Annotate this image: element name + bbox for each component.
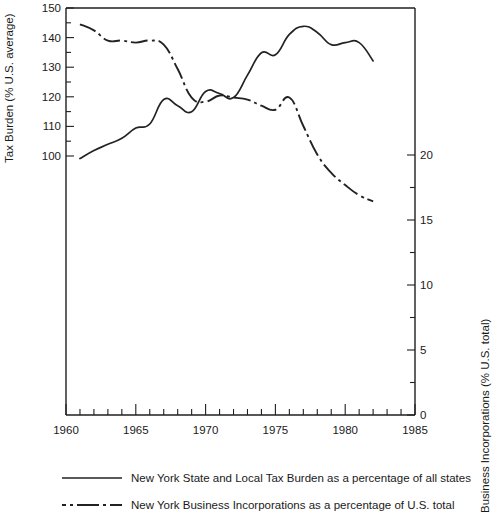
left-tick-label-100: 100 (42, 150, 61, 162)
left-tick-label-140: 140 (42, 32, 61, 44)
right-tick-label-10: 10 (420, 279, 433, 291)
legend-entry-business-incorporations: New York Business Incorporations as a pe… (62, 499, 454, 511)
x-tick-label-1975: 1975 (263, 424, 289, 436)
left-tick-label-110: 110 (43, 120, 61, 132)
x-tick-label-1980: 1980 (332, 424, 358, 436)
left-tick-label-150: 150 (42, 2, 61, 14)
right-tick-label-15: 15 (420, 214, 433, 226)
chart-svg: 150 140 130 120 110 100 Tax Burden (% U.… (0, 0, 498, 513)
right-tick-label-5: 5 (420, 344, 426, 356)
legend-label-business-incorporations: New York Business Incorporations as a pe… (131, 499, 454, 511)
x-axis-ticks (66, 404, 415, 415)
left-axis-tick-labels: 150 140 130 120 110 100 (42, 2, 61, 162)
plot-frame (66, 8, 415, 415)
left-axis-ticks (66, 8, 74, 156)
left-axis-title: Tax Burden (% U.S. average) (3, 13, 15, 163)
x-tick-label-1985: 1985 (402, 424, 428, 436)
chart-legend: New York State and Local Tax Burden as a… (62, 472, 471, 511)
series-line-tax-burden (80, 26, 373, 158)
right-tick-label-20: 20 (420, 149, 433, 161)
x-tick-label-1965: 1965 (123, 424, 149, 436)
x-axis-tick-labels: 1960 1965 1970 1975 1980 1985 (53, 424, 428, 436)
left-tick-label-130: 130 (42, 61, 61, 73)
right-axis-title: Business Incorporations (% U.S. total) (479, 319, 491, 513)
x-tick-label-1970: 1970 (193, 424, 219, 436)
legend-label-tax-burden: New York State and Local Tax Burden as a… (131, 472, 471, 484)
left-tick-label-120: 120 (42, 91, 61, 103)
right-tick-label-0: 0 (420, 409, 426, 421)
right-axis-ticks (407, 155, 415, 415)
x-tick-label-1960: 1960 (53, 424, 79, 436)
legend-entry-tax-burden: New York State and Local Tax Burden as a… (62, 472, 471, 484)
series-line-business-incorporations (80, 24, 373, 201)
right-axis-tick-labels: 20 15 10 5 0 (420, 149, 433, 421)
chart-figure: 150 140 130 120 110 100 Tax Burden (% U.… (0, 0, 498, 513)
